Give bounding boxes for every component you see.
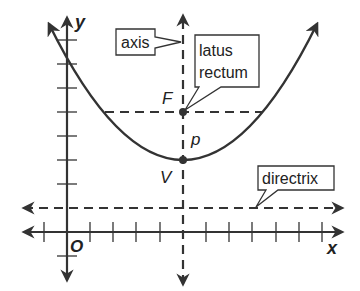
focus-label: F <box>162 89 174 108</box>
latus-rectum-text-1: latus <box>199 42 233 59</box>
axis-callout: axis <box>116 29 181 55</box>
parabola-diagram: y x O F V p axis latus rectum directrix <box>0 0 360 291</box>
distance-p-label: p <box>190 130 200 149</box>
latus-rectum-text-2: rectum <box>199 64 248 81</box>
x-axis-label: x <box>326 238 338 258</box>
directrix-callout-text: directrix <box>262 170 318 187</box>
y-axis-label: y <box>74 12 86 32</box>
directrix-callout: directrix <box>256 166 334 207</box>
origin-label: O <box>70 237 83 256</box>
vertex-point <box>179 156 187 164</box>
latus-rectum-callout: latus rectum <box>185 35 259 110</box>
vertex-label: V <box>160 168 173 187</box>
axis-callout-text: axis <box>121 34 149 51</box>
parabola-curve <box>49 24 317 160</box>
